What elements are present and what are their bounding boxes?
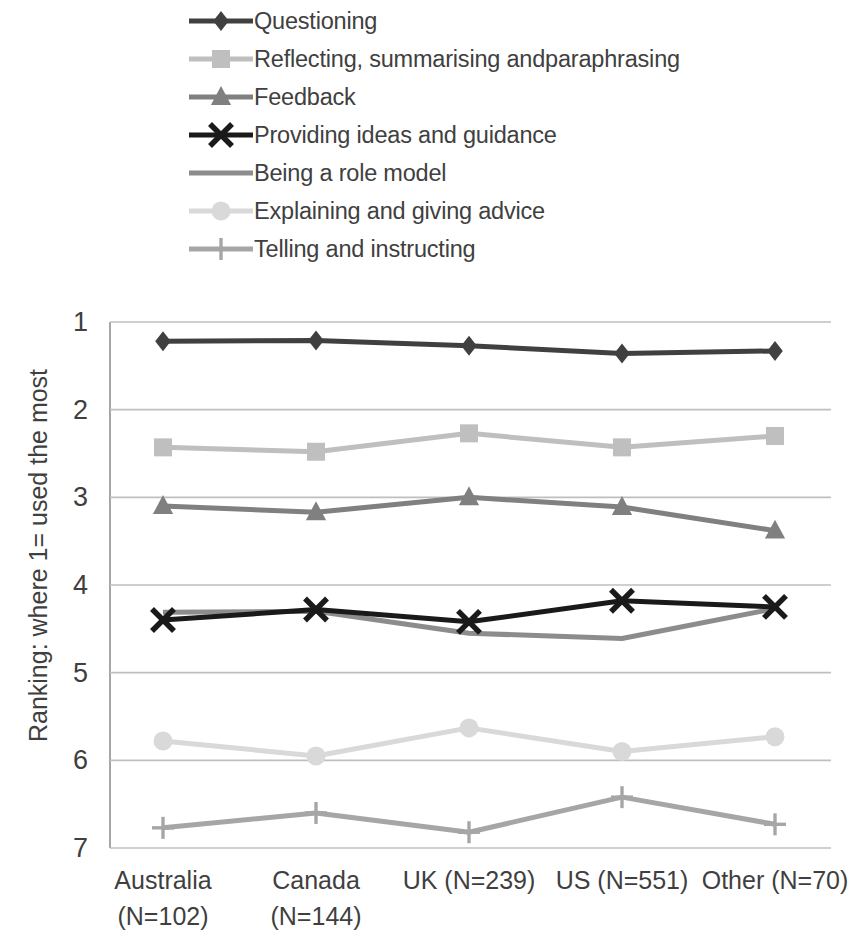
- y-axis-ticks: 1234567: [42, 286, 88, 866]
- y-tick-label: 3: [42, 482, 88, 513]
- y-tick-label: 5: [42, 657, 88, 688]
- marker-square: [460, 424, 478, 442]
- x-axis-category-line: US (N=551): [556, 862, 689, 898]
- legend-item-label: Being a role model: [254, 160, 446, 187]
- legend-item-label: Feedback: [254, 84, 356, 111]
- legend-item-label: Telling and instructing: [254, 236, 475, 263]
- marker-plus: [611, 786, 633, 808]
- legend-item[interactable]: Feedback: [188, 78, 848, 116]
- marker-plus: [458, 821, 480, 843]
- x-axis-category-label: Australia(N=102): [114, 862, 211, 934]
- legend-swatch-triangle-icon: [188, 78, 254, 116]
- x-axis-labels: Australia(N=102)Canada(N=144)UK (N=239)U…: [0, 862, 857, 939]
- legend-swatch-plus-icon: [188, 230, 254, 268]
- marker-diamond: [155, 331, 171, 351]
- marker-circle: [766, 727, 785, 746]
- y-tick-label: 1: [42, 307, 88, 338]
- marker-circle: [212, 202, 231, 221]
- legend-item[interactable]: Telling and instructing: [188, 230, 848, 268]
- legend-key: [188, 192, 254, 230]
- marker-square: [307, 443, 325, 461]
- x-axis-category-label: Other (N=70): [702, 862, 849, 898]
- legend-swatch-none-icon: [188, 154, 254, 192]
- marker-square: [613, 438, 631, 456]
- y-tick-label: 6: [42, 745, 88, 776]
- legend-swatch-square-icon: [188, 40, 254, 78]
- legend-key: [188, 78, 254, 116]
- y-tick-label: 7: [42, 833, 88, 864]
- legend-key: [188, 116, 254, 154]
- x-axis-category-line: Other (N=70): [702, 862, 849, 898]
- legend-swatch-diamond-icon: [188, 2, 254, 40]
- x-axis-category-line: Canada: [270, 862, 361, 898]
- plot-svg: [110, 286, 831, 866]
- plot-area: [110, 286, 831, 866]
- x-axis-category-line: (N=144): [270, 898, 361, 934]
- marker-diamond: [308, 330, 324, 350]
- x-axis-category-label: US (N=551): [556, 862, 689, 898]
- chart-figure: QuestioningReflecting, summarising andpa…: [0, 0, 857, 939]
- chart-legend: QuestioningReflecting, summarising andpa…: [188, 2, 848, 268]
- marker-circle: [154, 732, 173, 751]
- y-tick-label: 4: [42, 570, 88, 601]
- marker-plus: [210, 238, 232, 260]
- marker-plus: [764, 813, 786, 835]
- marker-circle: [613, 742, 632, 761]
- legend-item[interactable]: Explaining and giving advice: [188, 192, 848, 230]
- marker-square: [766, 427, 784, 445]
- legend-item[interactable]: Reflecting, summarising andparaphrasing: [188, 40, 848, 78]
- legend-item-label: Questioning: [254, 8, 377, 35]
- marker-circle: [307, 746, 326, 765]
- marker-square: [154, 438, 172, 456]
- marker-square: [212, 50, 230, 68]
- legend-key: [188, 230, 254, 268]
- x-axis-category-label: UK (N=239): [403, 862, 536, 898]
- legend-item-label: Reflecting, summarising andparaphrasing: [254, 46, 680, 73]
- x-axis-category-line: UK (N=239): [403, 862, 536, 898]
- x-axis-category-line: Australia: [114, 862, 211, 898]
- legend-swatch-circle-icon: [188, 192, 254, 230]
- marker-diamond: [213, 11, 229, 31]
- marker-plus: [152, 817, 174, 839]
- marker-diamond: [767, 341, 783, 361]
- x-axis-category-label: Canada(N=144): [270, 862, 361, 934]
- marker-diamond: [614, 344, 630, 364]
- legend-item[interactable]: Being a role model: [188, 154, 848, 192]
- legend-key: [188, 154, 254, 192]
- legend-key: [188, 40, 254, 78]
- legend-key: [188, 2, 254, 40]
- legend-swatch-cross-icon: [188, 116, 254, 154]
- x-axis-category-line: (N=102): [114, 898, 211, 934]
- plot-region: Ranking: where 1= used the most 1234567: [0, 286, 857, 866]
- y-tick-label: 2: [42, 394, 88, 425]
- marker-diamond: [461, 336, 477, 356]
- legend-item-label: Providing ideas and guidance: [254, 122, 557, 149]
- legend-item[interactable]: Providing ideas and guidance: [188, 116, 848, 154]
- legend-item-label: Explaining and giving advice: [254, 198, 545, 225]
- marker-circle: [460, 718, 479, 737]
- legend-item[interactable]: Questioning: [188, 2, 848, 40]
- marker-plus: [305, 802, 327, 824]
